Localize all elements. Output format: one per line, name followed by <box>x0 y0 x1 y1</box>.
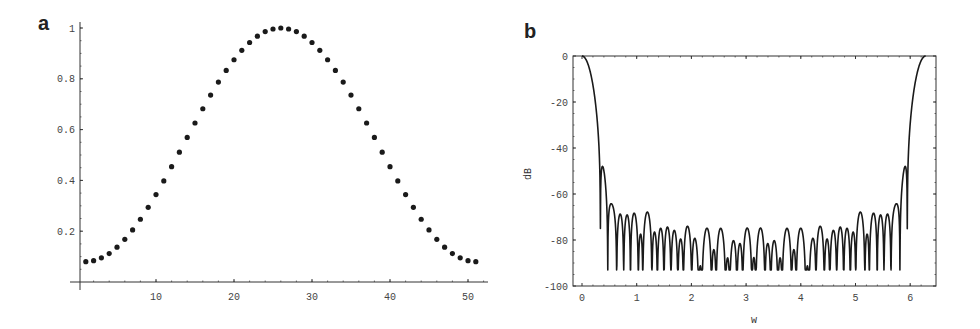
data-point <box>395 178 400 183</box>
data-point <box>325 57 330 62</box>
chart-panel-a: a 10203040500.20.40.60.81 <box>0 0 490 329</box>
data-point <box>153 192 158 197</box>
data-point <box>286 26 291 31</box>
data-point <box>91 258 96 263</box>
axes-a: 10203040500.20.40.60.81 <box>57 22 488 303</box>
data-point <box>122 237 127 242</box>
y-tick-label: -80 <box>550 236 568 247</box>
data-point <box>200 106 205 111</box>
x-tick-label: 3 <box>743 293 749 304</box>
data-point <box>465 258 470 263</box>
data-point <box>411 205 416 210</box>
scatter-plot-a: 10203040500.20.40.60.81 <box>0 0 490 329</box>
data-point <box>263 29 268 34</box>
data-point <box>161 178 166 183</box>
x-tick-label: 40 <box>384 292 396 303</box>
y-tick-label: 0.4 <box>57 176 75 187</box>
data-point <box>99 255 104 260</box>
data-point <box>364 120 369 125</box>
x-tick-label: 2 <box>688 293 694 304</box>
data-point <box>309 40 314 45</box>
y-tick-label: 0.8 <box>57 74 75 85</box>
data-point <box>302 34 307 39</box>
data-point <box>380 150 385 155</box>
x-tick-label: 30 <box>306 292 318 303</box>
data-point <box>192 120 197 125</box>
x-tick-label: 4 <box>798 293 804 304</box>
data-point <box>231 57 236 62</box>
data-point <box>146 205 151 210</box>
data-point <box>83 259 88 264</box>
data-points-a <box>83 25 478 264</box>
y-tick-label: -20 <box>550 98 568 109</box>
x-tick-label: 6 <box>907 293 913 304</box>
data-point <box>348 92 353 97</box>
data-point <box>450 251 455 256</box>
data-point <box>114 245 119 250</box>
data-point <box>458 255 463 260</box>
y-tick-label: 0.6 <box>57 125 75 136</box>
data-point <box>341 80 346 85</box>
data-point <box>426 227 431 232</box>
x-tick-label: 10 <box>150 292 162 303</box>
x-axis-title: w <box>751 315 757 326</box>
data-point <box>473 259 478 264</box>
data-point <box>356 106 361 111</box>
data-point <box>185 135 190 140</box>
data-point <box>177 150 182 155</box>
data-point <box>317 48 322 53</box>
data-point <box>294 29 299 34</box>
data-point <box>419 217 424 222</box>
data-point <box>403 192 408 197</box>
data-point <box>372 135 377 140</box>
data-point <box>270 26 275 31</box>
x-tick-label: 0 <box>579 293 585 304</box>
y-tick-label: -100 <box>544 282 568 293</box>
x-tick-label: 50 <box>462 292 474 303</box>
data-point <box>278 25 283 30</box>
y-tick-label: 0.2 <box>57 227 75 238</box>
data-point <box>387 164 392 169</box>
data-point <box>138 217 143 222</box>
plot-frame <box>573 56 936 286</box>
x-tick-label: 20 <box>228 292 240 303</box>
data-point <box>208 92 213 97</box>
data-point <box>107 251 112 256</box>
chart-panel-b: b 01234560-20-40-60-80-100 w dB <box>490 0 980 329</box>
data-point <box>216 80 221 85</box>
data-point <box>169 164 174 169</box>
data-point <box>255 34 260 39</box>
data-point <box>434 237 439 242</box>
y-tick-label: 1 <box>69 24 75 35</box>
x-tick-label: 1 <box>634 293 640 304</box>
line-plot-b: 01234560-20-40-60-80-100 w dB <box>490 0 980 329</box>
data-point <box>224 68 229 73</box>
data-point <box>130 227 135 232</box>
data-point <box>239 48 244 53</box>
y-tick-label: -60 <box>550 190 568 201</box>
x-tick-label: 5 <box>852 293 858 304</box>
y-tick-label: -40 <box>550 144 568 155</box>
y-tick-label: 0 <box>562 52 568 63</box>
data-point <box>442 245 447 250</box>
data-point <box>247 40 252 45</box>
data-point <box>333 68 338 73</box>
magnitude-response-line <box>582 56 926 270</box>
y-axis-title: dB <box>523 168 534 180</box>
